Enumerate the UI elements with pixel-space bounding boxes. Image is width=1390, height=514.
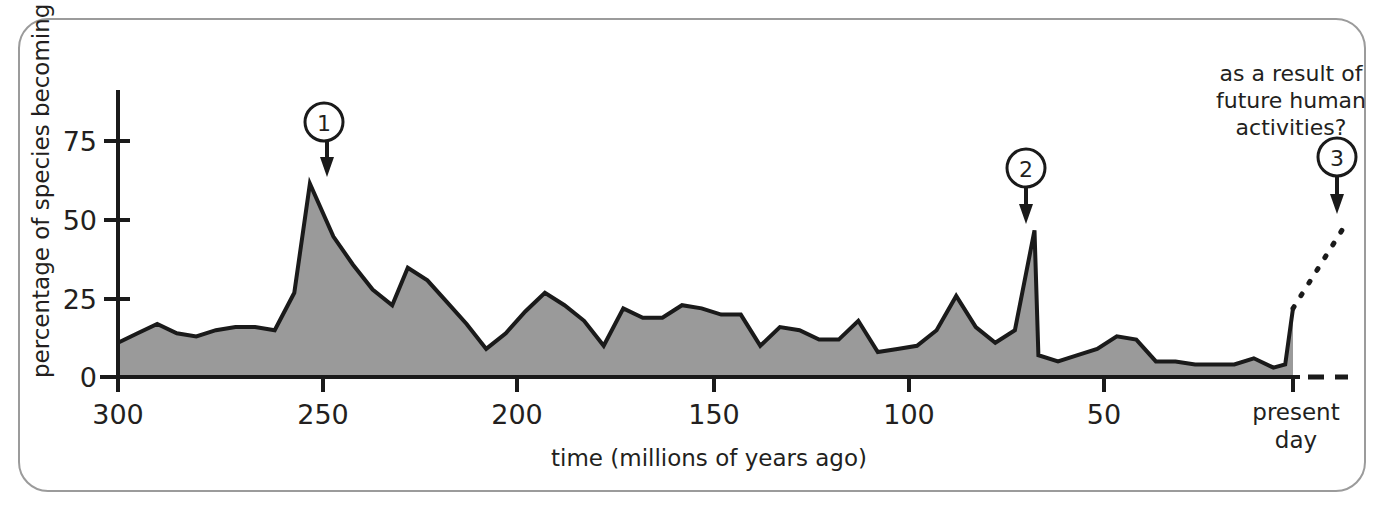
y-tick-label-0: 0: [80, 362, 97, 393]
data-area-group: [118, 184, 1293, 377]
x-tick-label-150: 150: [688, 399, 740, 430]
x-tick-label-250: 250: [297, 399, 349, 430]
callout-3[interactable]: 3: [1318, 138, 1356, 214]
x-tick-label-300: 300: [92, 399, 144, 430]
callout-3-arrow-head: [1330, 194, 1344, 214]
future-activities-annotation: as a result of future human activities?: [1216, 61, 1366, 140]
callout-2-label: 2: [1019, 157, 1033, 182]
callout-2-arrow-head: [1019, 204, 1033, 224]
y-tick-label-75: 75: [63, 126, 97, 157]
x-tick-label-50: 50: [1087, 399, 1121, 430]
future-projection-dashed-line: [1293, 227, 1344, 308]
chart-canvas: percentage of species becoming extinct 7…: [0, 0, 1390, 514]
callout-1[interactable]: 1: [305, 103, 343, 177]
x-tick-label-100: 100: [883, 399, 935, 430]
x-axis-title: time (millions of years ago): [551, 445, 867, 471]
x-tick-label-present-line2: day: [1275, 427, 1317, 453]
x-tick-label-present-line1: present: [1252, 399, 1339, 425]
x-tick-label-200: 200: [491, 399, 543, 430]
annotation-line-2: future human: [1216, 88, 1366, 113]
callout-1-label: 1: [317, 111, 331, 136]
callout-2[interactable]: 2: [1007, 149, 1045, 224]
callout-3-label: 3: [1330, 146, 1344, 171]
annotation-line-1: as a result of: [1220, 61, 1364, 86]
y-tick-label-25: 25: [63, 284, 97, 315]
annotation-line-3: activities?: [1236, 115, 1347, 140]
callout-1-arrow-head: [320, 157, 334, 177]
y-tick-label-50: 50: [63, 205, 97, 236]
y-axis-title: percentage of species becoming extinct: [28, 0, 54, 378]
extinction-chart-figure: percentage of species becoming extinct 7…: [0, 0, 1390, 514]
